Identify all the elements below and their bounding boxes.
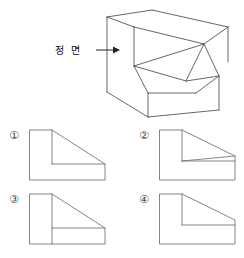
option-2-shape[interactable] [160,130,235,180]
arrow-right-icon [96,47,120,54]
option-number-3[interactable]: ③ [9,194,19,205]
option-1-shape[interactable] [30,130,105,180]
top-back-left-edge [107,10,152,17]
solid-edge-group [107,10,228,117]
apex-to-left-ridge [134,44,204,66]
top-face-front-left-edge [107,17,134,27]
option-number-2[interactable]: ② [139,130,149,141]
solid-figure-svg [0,0,244,258]
base-bottom-edge [148,110,219,117]
slant-left-edge [134,66,148,93]
option-3-shape[interactable] [30,194,105,244]
front-view-label: 정 면 [55,42,82,57]
option-shapes-group [30,130,235,244]
option-number-4[interactable]: ④ [139,194,149,205]
question-page: 정 면 ① ② ③ ④ [0,0,244,258]
option-number-1[interactable]: ① [9,130,19,141]
solid-figure-container [0,0,244,258]
option-1-outer-boundary [30,130,105,180]
mid-to-right-ridge [186,76,219,81]
option-4-outer-boundary [160,194,235,244]
top-back-right-edge [152,10,228,27]
left-bottom-slant [107,92,148,117]
front-upper-bottom-edge [134,66,186,81]
option-3-outer-boundary [30,194,105,244]
option-2-inner-diagonal [182,156,235,161]
apex-to-right-ridge [204,44,219,76]
apex-to-mid-ridge [186,44,204,81]
top-face-right-edge [204,27,228,44]
option-4-shape[interactable] [160,194,235,244]
option-2-outer-boundary [160,130,235,180]
top-face-front-right-edge [134,27,204,44]
